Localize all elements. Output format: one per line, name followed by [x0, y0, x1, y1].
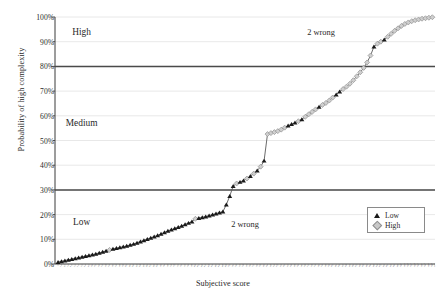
x-tick-label: 61 — [265, 264, 268, 267]
x-tick-label: 96 — [385, 264, 388, 267]
x-tick-label: 27 — [148, 264, 151, 267]
x-tick-label: 13 — [100, 264, 103, 267]
x-tick-label: 82 — [337, 264, 340, 267]
legend-item-high: High — [371, 220, 421, 230]
x-tick-label: 17 — [114, 264, 117, 267]
zone-label-medium: Medium — [66, 118, 98, 128]
legend-item-low: Low — [371, 210, 421, 220]
x-tick-label: 73 — [306, 264, 309, 267]
zone-label-low: Low — [73, 217, 90, 227]
x-tick-label: 66 — [282, 264, 285, 267]
x-tick-label: 89 — [361, 264, 364, 267]
x-tick-label: 75 — [313, 264, 316, 267]
x-tick-label: 91 — [368, 264, 371, 267]
x-tick-label: 8 — [83, 265, 86, 266]
x-tick-label: 110 — [433, 263, 436, 267]
x-tick-label: 43 — [203, 264, 206, 267]
x-tick-label: 80 — [330, 264, 333, 267]
x-tick-label: 20 — [124, 264, 127, 267]
annotation-1: 2 wrong — [307, 27, 335, 36]
x-tick-label: 87 — [354, 264, 357, 267]
x-tick-label: 29 — [155, 264, 158, 267]
x-tick-label: 54 — [241, 264, 244, 267]
x-tick-label: 98 — [392, 264, 395, 267]
x-tick-label: 70 — [296, 264, 299, 267]
annotation-0: 2 wrong — [231, 220, 259, 229]
x-tick-label: 52 — [234, 264, 237, 267]
x-tick-label: 103 — [409, 263, 412, 267]
x-tick-label: 50 — [227, 264, 230, 267]
x-tick-label: 1 — [59, 265, 62, 266]
x-tick-label: 34 — [172, 264, 175, 267]
x-tick-label: 38 — [186, 264, 189, 267]
x-tick-label: 57 — [251, 264, 254, 267]
x-tick-label: 105 — [416, 263, 419, 267]
x-tick-label: 36 — [179, 264, 182, 267]
chart-legend: Low High — [367, 207, 425, 233]
x-tick-label: 100 — [399, 263, 402, 267]
chart-figure: Probability of high complexity Subjectiv… — [0, 0, 446, 300]
x-tick-label: 107 — [423, 263, 426, 267]
triangle-icon — [371, 213, 383, 218]
zone-label-high: High — [72, 27, 91, 37]
legend-label-low: Low — [383, 211, 399, 220]
x-tick-label: 45 — [210, 264, 213, 267]
x-tick-label: 31 — [162, 264, 165, 267]
x-axis-tick-labels: 1234567891011121314151617181920212223242… — [0, 0, 446, 300]
x-tick-label: 59 — [258, 264, 261, 267]
x-tick-label: 24 — [138, 264, 141, 267]
x-tick-label: 22 — [131, 264, 134, 267]
x-tick-label: 6 — [76, 265, 79, 266]
x-tick-label: 77 — [320, 264, 323, 267]
diamond-icon — [371, 222, 383, 229]
x-tick-label: 68 — [289, 264, 292, 267]
x-tick-label: 47 — [217, 264, 220, 267]
legend-label-high: High — [383, 221, 400, 230]
x-tick-label: 4 — [69, 265, 72, 266]
x-tick-label: 84 — [344, 264, 347, 267]
x-tick-label: 15 — [107, 264, 110, 267]
